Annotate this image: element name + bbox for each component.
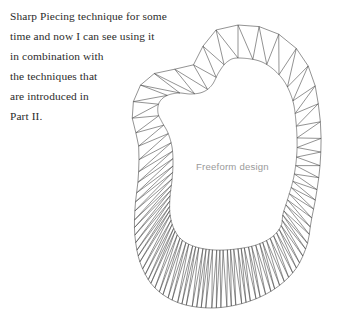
figure-label: Freeform design (196, 161, 269, 172)
figure-page: Sharp Piecing technique for some time an… (0, 0, 344, 321)
freeform-design-figure (0, 0, 344, 321)
